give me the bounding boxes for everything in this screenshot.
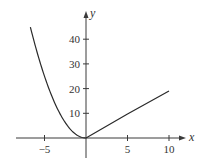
- piecewise-function-chart: x y −5510 10203040: [0, 0, 199, 162]
- x-axis-label: x: [188, 130, 195, 144]
- x-axis-arrow-icon: [179, 136, 186, 141]
- x-tick-label: 10: [164, 143, 176, 155]
- x-tick-label: −5: [39, 143, 51, 155]
- y-tick-label: 10: [69, 107, 81, 119]
- series: [30, 27, 169, 138]
- y-tick-label: 40: [69, 33, 81, 45]
- y-axis-label: y: [89, 6, 96, 20]
- x-tick-label: 5: [125, 143, 131, 155]
- y-tick-label: 20: [69, 83, 81, 95]
- axes: x y: [16, 6, 195, 158]
- y-axis-arrow-icon: [84, 11, 89, 18]
- y-tick-label: 30: [69, 58, 81, 70]
- linear-branch: [86, 91, 169, 138]
